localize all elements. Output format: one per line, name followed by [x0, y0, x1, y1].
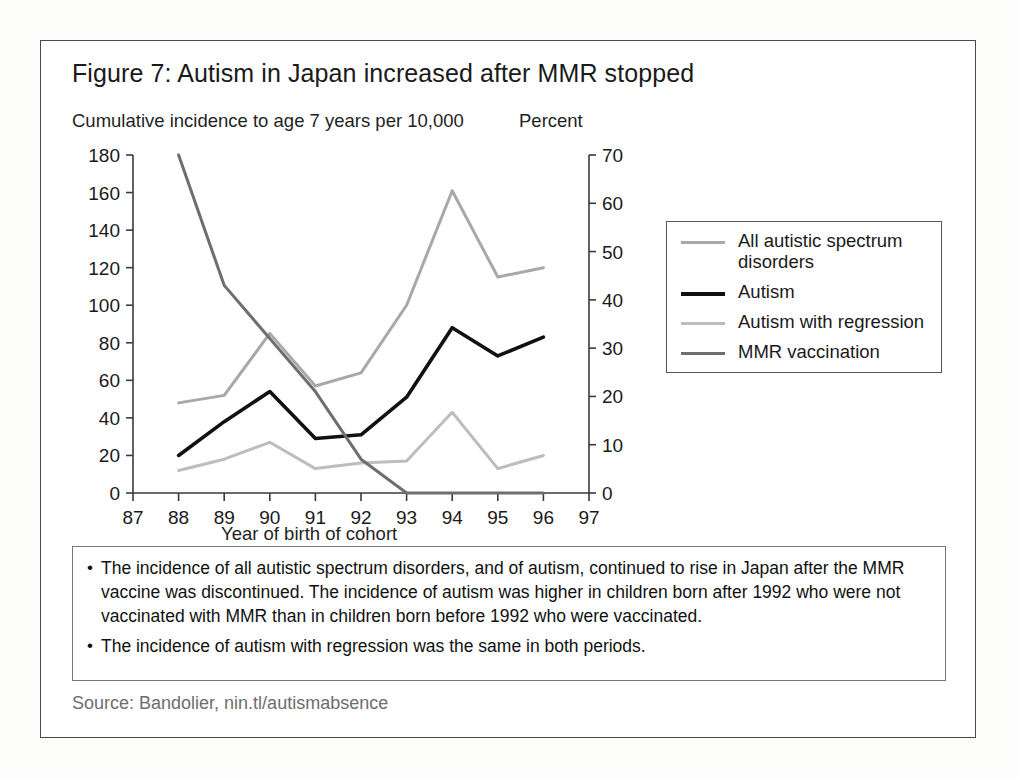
source-caption: Source: Bandolier, nin.tl/autismabsence	[72, 693, 388, 714]
note-text: The incidence of all autistic spectrum d…	[101, 557, 929, 628]
svg-text:30: 30	[602, 338, 623, 359]
svg-text:80: 80	[99, 333, 120, 354]
svg-text:96: 96	[533, 507, 554, 528]
legend-item[interactable]: Autism with regression	[667, 312, 941, 333]
legend-item[interactable]: Autism	[667, 282, 941, 303]
svg-text:40: 40	[602, 290, 623, 311]
bullet-icon: •	[87, 557, 93, 628]
svg-text:94: 94	[442, 507, 464, 528]
svg-text:0: 0	[109, 483, 120, 504]
series-line	[179, 412, 544, 470]
chart-plot-area: 020406080100120140160180 010203040506070…	[41, 141, 681, 561]
legend-item-label: Autism	[738, 282, 795, 303]
line-chart-svg: 020406080100120140160180 010203040506070…	[41, 141, 681, 561]
svg-text:120: 120	[88, 258, 120, 279]
svg-text:160: 160	[88, 183, 120, 204]
svg-text:50: 50	[602, 242, 623, 263]
legend-item[interactable]: MMR vaccination	[667, 342, 941, 363]
svg-text:10: 10	[602, 435, 623, 456]
notes-panel: •The incidence of all autistic spectrum …	[72, 546, 946, 681]
svg-text:0: 0	[602, 483, 613, 504]
note-text: The incidence of autism with regression …	[101, 635, 646, 659]
chart-legend: All autistic spectrum disordersAutismAut…	[666, 221, 942, 373]
legend-color-swatch	[681, 322, 725, 325]
data-series-group	[179, 155, 544, 493]
note-item: •The incidence of autism with regression…	[87, 635, 929, 659]
legend-item-label: Autism with regression	[738, 312, 924, 333]
figure-title: Figure 7: Autism in Japan increased afte…	[72, 59, 694, 88]
series-line	[179, 155, 544, 493]
svg-text:180: 180	[88, 145, 120, 166]
svg-text:70: 70	[602, 145, 623, 166]
legend-color-swatch	[681, 352, 725, 355]
legend-color-swatch	[681, 241, 725, 244]
svg-text:88: 88	[168, 507, 189, 528]
legend-item-label: All autistic spectrum disorders	[738, 231, 934, 273]
figure-frame: Figure 7: Autism in Japan increased afte…	[40, 40, 976, 738]
legend-item-label: MMR vaccination	[738, 342, 880, 363]
svg-text:140: 140	[88, 220, 120, 241]
svg-text:87: 87	[122, 507, 143, 528]
x-axis-title: Year of birth of cohort	[221, 523, 397, 545]
legend-color-swatch	[681, 292, 725, 296]
axis-lines	[133, 155, 589, 493]
svg-text:100: 100	[88, 295, 120, 316]
svg-text:97: 97	[578, 507, 599, 528]
svg-text:60: 60	[602, 193, 623, 214]
legend-item[interactable]: All autistic spectrum disorders	[667, 231, 941, 273]
left-axis-ticks: 020406080100120140160180	[88, 145, 133, 504]
right-axis-ticks: 010203040506070	[589, 145, 623, 504]
bullet-icon: •	[87, 635, 93, 659]
svg-text:60: 60	[99, 370, 120, 391]
svg-text:95: 95	[487, 507, 508, 528]
left-axis-title: Cumulative incidence to age 7 years per …	[72, 110, 464, 132]
series-line	[179, 328, 544, 456]
svg-text:20: 20	[602, 386, 623, 407]
svg-text:40: 40	[99, 408, 120, 429]
note-item: •The incidence of all autistic spectrum …	[87, 557, 929, 628]
right-axis-title: Percent	[519, 110, 583, 132]
svg-text:93: 93	[396, 507, 417, 528]
svg-text:20: 20	[99, 445, 120, 466]
